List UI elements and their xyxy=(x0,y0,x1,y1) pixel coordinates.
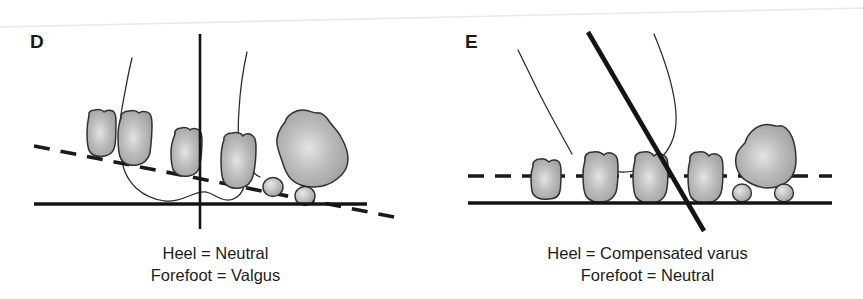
metatarsal-head-5-d xyxy=(87,110,116,157)
panel-label-e: E xyxy=(465,32,478,51)
panel-e-caption-line1: Heel = Compensated varus xyxy=(432,243,863,265)
metatarsal-head-4-d xyxy=(118,111,152,166)
panel-d-caption-line2: Forefoot = Valgus xyxy=(0,265,431,287)
metatarsal-head-3-d xyxy=(171,128,202,177)
metatarsal-head-2-d xyxy=(221,133,256,189)
metatarsal-heads-d xyxy=(87,110,348,189)
metatarsal-head-4-e xyxy=(583,152,618,203)
panel-d: D Heel = Neutral Forefoot = Valgus xyxy=(0,0,431,299)
metatarsal-head-2-e xyxy=(688,152,723,204)
sesamoid-medial-e xyxy=(733,184,752,202)
metatarsal-head-1-e xyxy=(736,124,796,188)
panel-e-caption: Heel = Compensated varus Forefoot = Neut… xyxy=(432,243,863,287)
panel-e-illustration xyxy=(432,0,863,240)
panel-d-caption-line1: Heel = Neutral xyxy=(0,243,431,265)
figure-container: D Heel = Neutral Forefoot = Valgus xyxy=(0,0,863,299)
sesamoid-medial-d xyxy=(263,178,283,197)
sesamoid-lateral-e xyxy=(775,184,794,202)
panel-d-caption: Heel = Neutral Forefoot = Valgus xyxy=(0,243,431,287)
metatarsal-head-1-d xyxy=(277,110,348,187)
panel-e: E Heel = Compensated varus Forefoot = Ne… xyxy=(432,0,863,299)
panel-label-d: D xyxy=(30,32,44,51)
panel-e-caption-line2: Forefoot = Neutral xyxy=(432,265,863,287)
metatarsal-head-5-e xyxy=(531,159,561,200)
panel-d-illustration xyxy=(0,0,431,240)
